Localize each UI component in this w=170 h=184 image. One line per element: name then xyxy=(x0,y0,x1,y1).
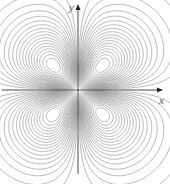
contour-line xyxy=(85,35,133,83)
contour-line xyxy=(82,94,147,159)
contour-lines xyxy=(0,0,170,184)
y-axis-arrow-icon xyxy=(76,4,81,10)
contour-line xyxy=(96,108,110,122)
x-axis-arrow-icon xyxy=(157,88,163,93)
x-axis-label: x xyxy=(159,95,164,106)
contour-line xyxy=(89,46,122,79)
contour-line xyxy=(34,101,67,134)
y-axis-label: y xyxy=(69,2,74,13)
contour-line xyxy=(87,99,127,139)
contour-line xyxy=(46,108,60,122)
orbital-contour-figure: y x xyxy=(0,0,170,184)
contour-line xyxy=(23,97,71,145)
contour-plot xyxy=(0,0,170,184)
contour-line xyxy=(89,101,122,134)
contour-line xyxy=(85,97,133,145)
contour-line xyxy=(87,41,127,81)
contour-line xyxy=(29,99,69,139)
contour-line xyxy=(9,21,74,86)
contour-line xyxy=(29,41,69,81)
contour-line xyxy=(82,21,147,86)
contour-line xyxy=(23,35,71,83)
contour-line xyxy=(9,94,74,159)
contour-line xyxy=(46,58,60,72)
contour-line xyxy=(34,46,67,79)
contour-line xyxy=(96,58,110,72)
